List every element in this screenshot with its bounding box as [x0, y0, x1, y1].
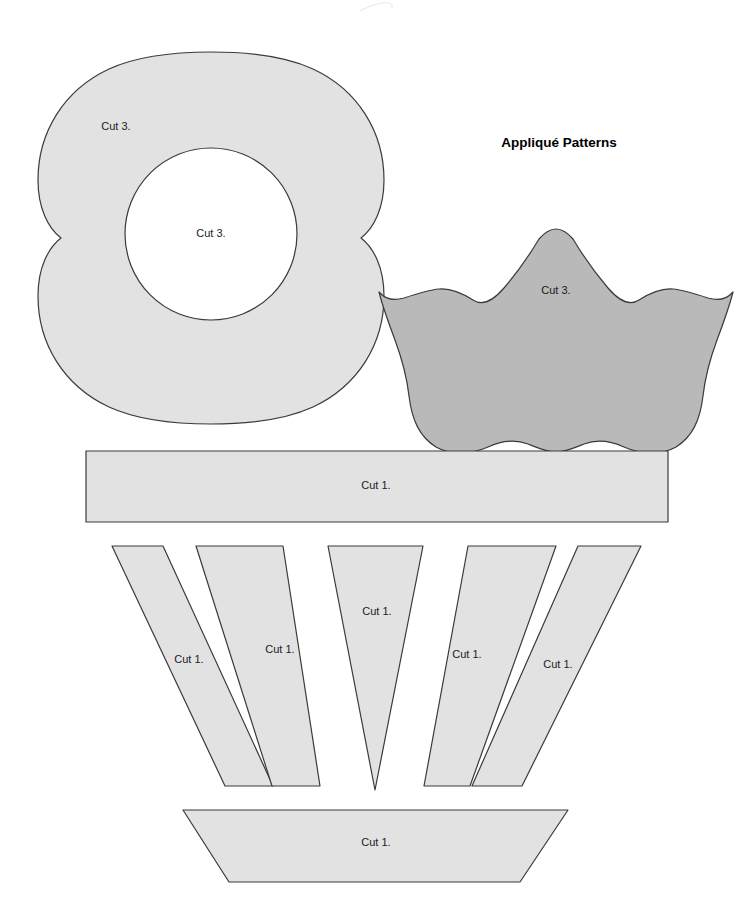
- basket-slat-2-label: Cut 1.: [265, 643, 294, 655]
- basket-slats-group: Cut 1. Cut 1. Cut 1. Cut 1. Cut 1.: [112, 546, 641, 790]
- basket-slat-5-label: Cut 1.: [543, 658, 572, 670]
- basket-slat-4-label: Cut 1.: [452, 648, 481, 660]
- basket-base-group: Cut 1.: [183, 810, 568, 882]
- page-title: Appliqué Patterns: [501, 135, 617, 150]
- flower-center-circle-label: Cut 3.: [196, 227, 225, 239]
- four-petal-flower-label: Cut 3.: [101, 120, 130, 132]
- basket-slat-3-center: [328, 546, 423, 790]
- pattern-sheet-page: Cut 3. Cut 3. Appliqué Patterns Cut 3. C…: [0, 0, 746, 918]
- tulip-petal-group: [379, 229, 733, 453]
- pattern-sheet-canvas: Cut 3. Cut 3. Appliqué Patterns Cut 3. C…: [0, 0, 746, 918]
- basket-rim-band-label: Cut 1.: [361, 479, 390, 491]
- faint-scan-artifact: [360, 3, 392, 11]
- tulip-petal: [379, 229, 733, 453]
- basket-slat-3-label: Cut 1.: [362, 605, 391, 617]
- tulip-petal-label: Cut 3.: [541, 284, 570, 296]
- basket-slat-1-label: Cut 1.: [174, 653, 203, 665]
- basket-rim-band-group: Cut 1.: [86, 451, 668, 522]
- basket-base-label: Cut 1.: [361, 836, 390, 848]
- four-petal-flower-group: Cut 3. Cut 3.: [38, 52, 384, 424]
